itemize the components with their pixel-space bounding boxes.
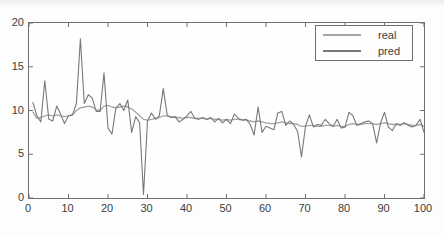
x-tick-label: 90	[369, 202, 399, 214]
y-tick-label: 10	[0, 104, 24, 116]
legend: real pred	[315, 25, 413, 61]
y-tick-label: 20	[0, 16, 24, 28]
legend-label-real: real	[378, 29, 396, 41]
x-tick-label: 20	[92, 202, 122, 214]
scan-artifact-streak	[0, 0, 444, 7]
x-tick-label: 10	[53, 202, 83, 214]
x-tick-label: 30	[132, 202, 162, 214]
x-tick-label: 0	[13, 202, 43, 214]
real-line	[33, 105, 424, 126]
x-tick-label: 70	[290, 202, 320, 214]
figure-canvas: 0102030405060708090100 05101520 real pre…	[0, 0, 444, 236]
y-tick-label: 0	[0, 191, 24, 203]
pred-line	[33, 39, 424, 195]
legend-item-pred: pred	[316, 44, 412, 58]
y-tick-label: 15	[0, 60, 24, 72]
x-tick-label: 40	[171, 202, 201, 214]
real-line-sample	[323, 34, 361, 36]
x-tick-label: 60	[250, 202, 280, 214]
x-tick-label: 50	[211, 202, 241, 214]
legend-item-real: real	[316, 28, 412, 42]
pred-line-sample	[323, 50, 361, 52]
x-tick-label: 80	[329, 202, 359, 214]
y-tick-label: 5	[0, 147, 24, 159]
legend-label-pred: pred	[378, 45, 400, 57]
x-tick-label: 100	[408, 202, 438, 214]
